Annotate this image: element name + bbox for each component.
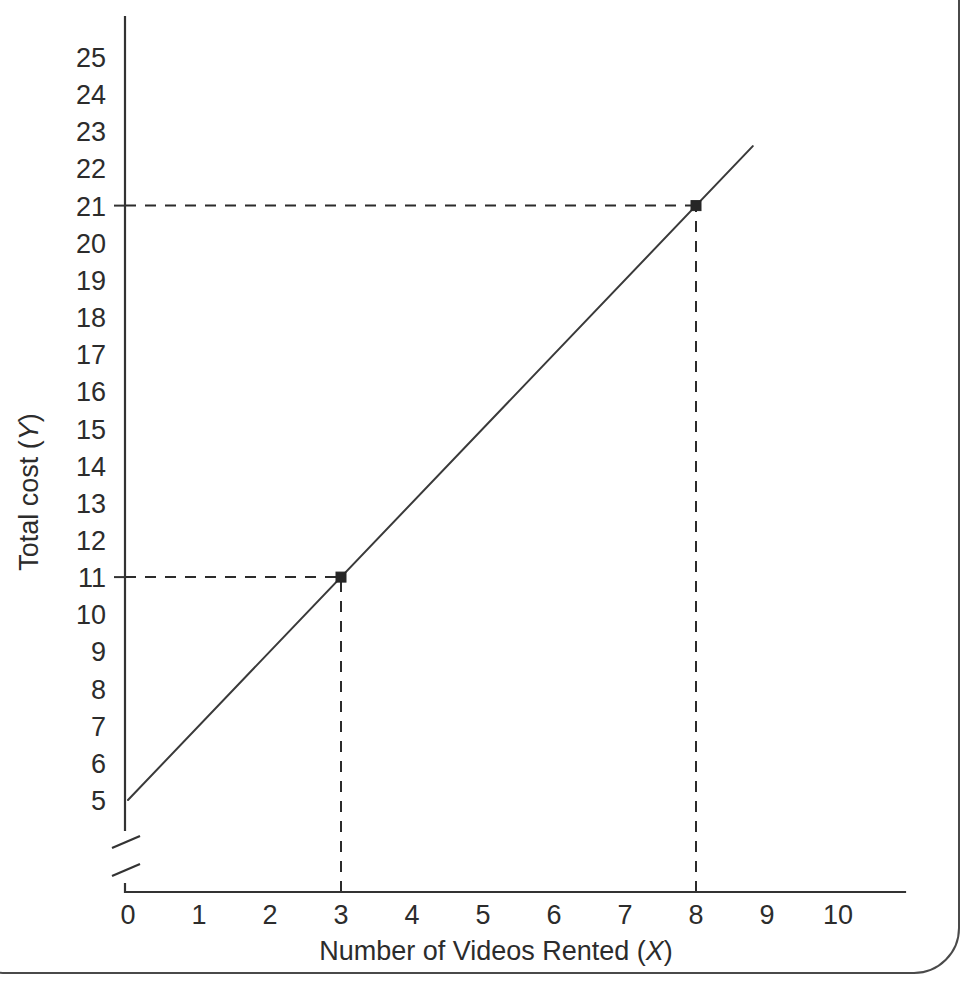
y-tick-label: 12 xyxy=(76,526,106,556)
y-tick-marks-group xyxy=(114,206,125,577)
x-tick-label: 9 xyxy=(759,900,774,930)
x-tick-label: 5 xyxy=(475,900,490,930)
x-tick-label: 7 xyxy=(617,900,632,930)
cost-line xyxy=(128,146,753,800)
y-tick-label: 18 xyxy=(76,303,106,333)
point-8-21 xyxy=(691,201,701,211)
y-tick-label: 20 xyxy=(76,229,106,259)
y-tick-label: 13 xyxy=(76,489,106,519)
x-tick-label: 4 xyxy=(404,900,419,930)
y-tick-label: 19 xyxy=(76,266,106,296)
guide-lines-group xyxy=(125,206,696,892)
x-tick-label: 6 xyxy=(546,900,561,930)
y-tick-label: 23 xyxy=(76,117,106,147)
x-tick-labels-group: 012345678910 xyxy=(120,900,853,930)
chart-figure: 5678910111213141516171819202122232425 01… xyxy=(0,0,970,1002)
line-chart-svg: 5678910111213141516171819202122232425 01… xyxy=(0,0,970,1002)
y-tick-label: 8 xyxy=(91,675,106,705)
x-tick-label: 0 xyxy=(120,900,135,930)
y-tick-label: 9 xyxy=(91,637,106,667)
y-tick-label: 14 xyxy=(76,452,106,482)
y-tick-label: 21 xyxy=(76,192,106,222)
x-tick-label: 8 xyxy=(688,900,703,930)
x-tick-label: 10 xyxy=(823,900,853,930)
y-tick-label: 11 xyxy=(78,563,106,593)
y-tick-label: 25 xyxy=(76,43,106,73)
x-axis-line xyxy=(125,884,905,892)
point-3-11 xyxy=(336,572,346,582)
page-canvas: 5678910111213141516171819202122232425 01… xyxy=(0,0,970,1002)
y-tick-labels-group: 5678910111213141516171819202122232425 xyxy=(76,43,106,816)
y-tick-label: 15 xyxy=(76,415,106,445)
y-tick-label: 24 xyxy=(76,80,106,110)
data-series-group xyxy=(128,146,753,800)
y-tick-label: 6 xyxy=(91,749,106,779)
x-axis-title: Number of Videos Rented (X) xyxy=(319,936,673,966)
x-tick-label: 2 xyxy=(262,900,277,930)
x-tick-label: 3 xyxy=(333,900,348,930)
y-tick-label: 10 xyxy=(76,600,106,630)
x-tick-label: 1 xyxy=(191,900,206,930)
y-axis-title: Total cost (Y) xyxy=(14,413,44,571)
axes-group xyxy=(112,17,905,892)
y-tick-label: 7 xyxy=(91,712,106,742)
y-tick-label: 17 xyxy=(76,340,106,370)
y-tick-label: 22 xyxy=(76,154,106,184)
y-axis-break-icon xyxy=(112,836,140,876)
y-tick-label: 5 xyxy=(91,786,106,816)
y-tick-label: 16 xyxy=(76,377,106,407)
